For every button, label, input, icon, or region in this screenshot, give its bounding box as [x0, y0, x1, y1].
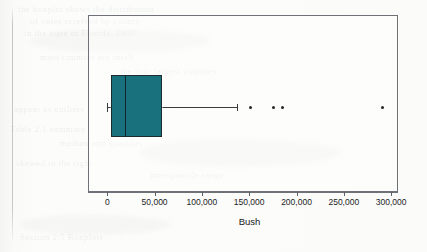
x-axis-tick — [344, 192, 345, 196]
x-axis-tick-label: 50,000 — [142, 197, 168, 207]
x-axis-line — [88, 192, 398, 193]
outlier-point — [249, 106, 252, 109]
outlier-point — [272, 106, 275, 109]
x-axis-tick-label: 100,000 — [187, 197, 218, 207]
x-axis-tick — [391, 192, 392, 196]
boxplot-figure: 050,000100,000150,000200,000250,000300,0… — [0, 0, 427, 252]
x-axis-tick-label: 0 — [105, 197, 110, 207]
whisker-high-cap — [237, 104, 238, 111]
x-axis-label: Bush — [0, 216, 427, 227]
x-axis-label-text: Bush — [239, 216, 261, 227]
x-axis-tick — [202, 192, 203, 196]
median-line — [125, 75, 126, 137]
whisker-high-line — [162, 107, 237, 108]
box-iqr — [111, 75, 162, 137]
x-axis-tick-label: 300,000 — [376, 197, 407, 207]
x-axis-tick — [297, 192, 298, 196]
outlier-point — [281, 106, 284, 109]
x-axis-tick-label: 150,000 — [234, 197, 265, 207]
x-axis-tick-label: 250,000 — [328, 197, 359, 207]
x-axis-tick-label: 200,000 — [281, 197, 312, 207]
x-axis-tick — [107, 192, 108, 196]
whisker-low-cap — [107, 103, 108, 112]
outlier-point — [381, 106, 384, 109]
x-axis-tick — [249, 192, 250, 196]
x-axis-tick — [155, 192, 156, 196]
